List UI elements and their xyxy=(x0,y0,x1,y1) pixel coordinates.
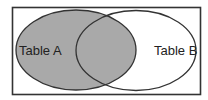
venn-diagram: Table A Table B xyxy=(0,0,208,100)
set-b-label: Table B xyxy=(154,43,197,58)
set-a-label: Table A xyxy=(19,43,62,58)
